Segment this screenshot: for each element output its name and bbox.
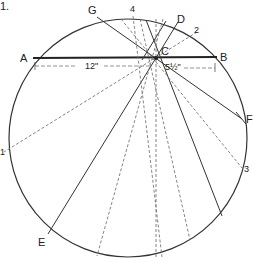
dimension-cb: 5½" bbox=[165, 62, 181, 72]
label-2: 2 bbox=[194, 25, 199, 35]
label-3: 3 bbox=[244, 164, 249, 174]
label-g: G bbox=[88, 4, 97, 16]
chord-diagram: 1. A B C D E F G 1 2 3 4 12" 5½" bbox=[0, 0, 254, 263]
dimension-ac: 12" bbox=[85, 61, 98, 71]
circle-outline bbox=[9, 19, 247, 257]
point-c bbox=[154, 56, 158, 60]
label-d: D bbox=[177, 13, 185, 25]
label-a: A bbox=[20, 52, 28, 64]
figure-number: 1. bbox=[0, 0, 9, 12]
label-4: 4 bbox=[130, 4, 135, 14]
label-1: 1 bbox=[0, 147, 5, 157]
label-e: E bbox=[38, 236, 45, 248]
solid-chords bbox=[48, 17, 242, 234]
dimension-lines bbox=[35, 66, 215, 68]
label-f: F bbox=[246, 113, 253, 125]
label-c: C bbox=[161, 45, 169, 57]
label-b: B bbox=[220, 51, 227, 63]
chord-ab bbox=[33, 57, 217, 58]
dashed-chords bbox=[4, 16, 242, 257]
